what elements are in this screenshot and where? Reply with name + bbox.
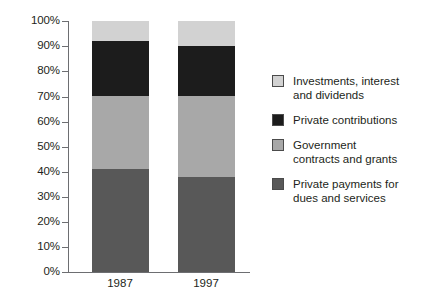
y-tick-label-0-wrap: 0% — [0, 266, 60, 278]
y-tick-60 — [62, 122, 68, 123]
y-tick-label-70: 70% — [8, 91, 60, 103]
y-tick-80 — [62, 71, 68, 72]
y-tick-label-100-wrap: 100% — [0, 15, 60, 27]
y-tick-label-60-wrap: 60% — [0, 116, 60, 128]
legend-label-investments: Investments, interest and dividends — [293, 74, 399, 102]
y-tick-label-20-wrap: 20% — [0, 216, 60, 228]
bar-group-1997 — [178, 21, 235, 272]
y-tick-label-60: 60% — [8, 116, 60, 128]
y-tick-40 — [62, 172, 68, 173]
y-tick-label-50-wrap: 50% — [0, 141, 60, 153]
y-tick-50 — [62, 147, 68, 148]
y-tick-0 — [62, 272, 68, 273]
bar-stack-1997 — [178, 21, 235, 272]
legend-label-private-payments: Private payments for dues and services — [293, 177, 398, 205]
y-tick-30 — [62, 197, 68, 198]
y-tick-label-40-wrap: 40% — [0, 166, 60, 178]
y-tick-label-20: 20% — [8, 216, 60, 228]
bar-segment-1997-private-payments — [178, 177, 235, 272]
legend-item-private-payments: Private payments for dues and services — [272, 177, 428, 205]
y-axis-line — [68, 21, 69, 273]
y-tick-label-0: 0% — [8, 266, 60, 278]
legend-item-government: Government contracts and grants — [272, 138, 428, 166]
bar-segment-1987-government — [92, 96, 149, 169]
legend-swatch-icon-private-contributions — [272, 114, 284, 126]
y-tick-label-10: 10% — [8, 241, 60, 253]
bar-segment-1997-investments — [178, 21, 235, 46]
bar-segment-1997-private-contributions — [178, 46, 235, 96]
y-tick-label-30-wrap: 30% — [0, 191, 60, 203]
stacked-bar-chart: 100% 90% 80% 70% 60% 50% 40% 30% — [0, 0, 430, 303]
legend-swatch-icon-private-payments — [272, 178, 284, 190]
legend-label-private-contributions: Private contributions — [293, 113, 397, 127]
y-tick-100 — [62, 21, 68, 22]
x-axis-line — [68, 272, 250, 273]
legend-item-investments: Investments, interest and dividends — [272, 74, 428, 102]
legend-swatch-icon-government — [272, 139, 284, 151]
y-tick-label-90: 90% — [8, 40, 60, 52]
y-tick-label-90-wrap: 90% — [0, 40, 60, 52]
y-tick-label-70-wrap: 70% — [0, 91, 60, 103]
x-axis-label-1987: 1987 — [77, 277, 163, 290]
y-tick-label-80: 80% — [8, 65, 60, 77]
bar-stack-1987 — [92, 21, 149, 272]
y-tick-label-10-wrap: 10% — [0, 241, 60, 253]
x-axis-label-1997: 1997 — [163, 277, 249, 290]
legend-swatch-icon-investments — [272, 75, 284, 87]
y-tick-90 — [62, 46, 68, 47]
y-tick-label-30: 30% — [8, 191, 60, 203]
y-tick-label-80-wrap: 80% — [0, 65, 60, 77]
chart-legend: Investments, interest and dividends Priv… — [272, 74, 428, 216]
bar-group-1987 — [92, 21, 149, 272]
y-tick-label-40: 40% — [8, 166, 60, 178]
y-tick-10 — [62, 247, 68, 248]
y-tick-label-100: 100% — [8, 15, 60, 27]
y-tick-20 — [62, 222, 68, 223]
bar-segment-1987-investments — [92, 21, 149, 41]
y-tick-label-50: 50% — [8, 141, 60, 153]
bar-segment-1997-government — [178, 96, 235, 176]
bar-segment-1987-private-payments — [92, 169, 149, 272]
legend-label-government: Government contracts and grants — [293, 138, 397, 166]
bar-segment-1987-private-contributions — [92, 41, 149, 96]
y-tick-70 — [62, 97, 68, 98]
legend-item-private-contributions: Private contributions — [272, 113, 428, 127]
